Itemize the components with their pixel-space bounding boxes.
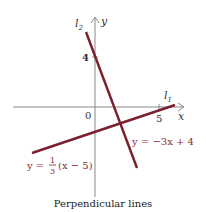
x-axis-label: x [178,110,185,123]
y-axis-label: y [100,15,108,28]
svg-text:(x − 5): (x − 5) [58,160,93,171]
y-tick-label-4: 4 [82,52,89,63]
origin-label: 0 [85,110,91,121]
l2-label: l2 [75,17,84,32]
equation-l1: y = 1 3 (x − 5) [26,156,93,176]
svg-text:1: 1 [50,156,55,165]
x-tick-label-5: 5 [156,113,162,124]
perpendicular-lines-diagram: l2 y 4 l1 0 5 x y = −3x + 4 y = 1 3 (x −… [0,0,206,212]
equation-l2: y = −3x + 4 [131,136,194,147]
l1-label: l1 [164,89,172,104]
figure-caption: Perpendicular lines [0,198,206,209]
svg-text:y =: y = [26,160,44,171]
svg-text:3: 3 [50,167,55,176]
line-l2 [86,32,137,168]
